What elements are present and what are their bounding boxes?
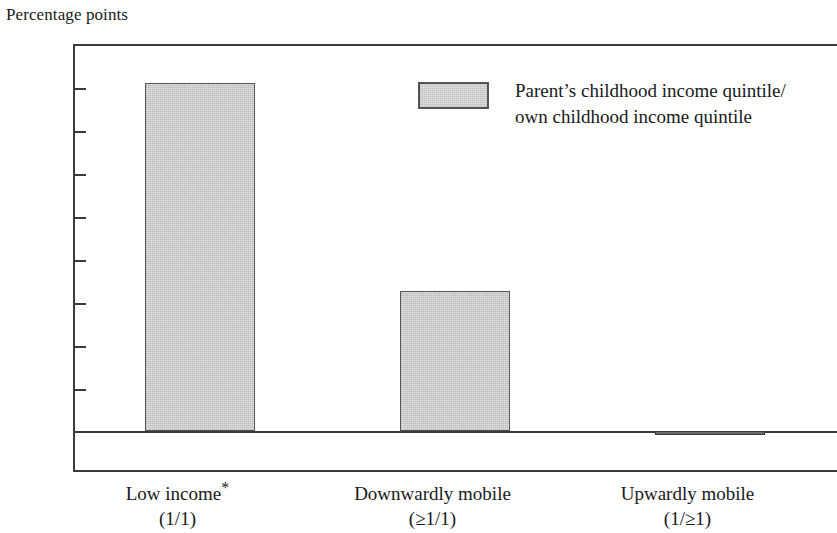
x-axis-label-text: Upwardly mobile (621, 483, 755, 504)
y-tick-mark (75, 346, 86, 348)
y-tick-mark (75, 389, 86, 391)
legend-label-line2: own childhood income quintile (515, 104, 786, 130)
axis-line-top (73, 44, 837, 46)
x-axis-label-line2: (1/1) (75, 506, 280, 531)
y-tick-mark (75, 88, 86, 90)
bar-low-income[interactable] (145, 83, 255, 431)
axis-line-left (73, 44, 75, 472)
footnote-star: * (221, 479, 229, 496)
x-axis-label-downwardly-mobile: Downwardly mobile (≥1/1) (330, 481, 535, 531)
x-axis-label-line1: Downwardly mobile (330, 481, 535, 506)
x-axis-label-line1: Low income* (75, 481, 280, 506)
y-tick-mark (75, 217, 86, 219)
bar-chart-figure: Percentage points 0.16 0.14 0.12 0.10 0.… (0, 0, 837, 533)
legend-swatch-icon (418, 82, 489, 109)
y-tick-mark (75, 260, 86, 262)
axis-line-bottom (73, 470, 837, 472)
x-axis-label-upwardly-mobile: Upwardly mobile (1/≥1) (585, 481, 790, 531)
x-axis-label-line1: Upwardly mobile (585, 481, 790, 506)
legend-label-line1: Parent’s childhood income quintile/ (515, 78, 786, 104)
chart-legend: Parent’s childhood income quintile/ own … (418, 78, 786, 130)
y-tick-mark (75, 303, 86, 305)
x-axis-label-line2: (1/≥1) (585, 506, 790, 531)
y-tick-mark (75, 131, 86, 133)
x-axis-label-text: Low income (126, 483, 222, 504)
y-axis-title: Percentage points (6, 4, 128, 26)
bar-downwardly-mobile[interactable] (400, 291, 510, 431)
x-axis-label-line2: (≥1/1) (330, 506, 535, 531)
legend-label: Parent’s childhood income quintile/ own … (515, 78, 786, 130)
x-axis-label-text: Downwardly mobile (354, 483, 511, 504)
x-axis-label-low-income: Low income* (1/1) (75, 481, 280, 531)
bar-upwardly-mobile[interactable] (655, 431, 765, 435)
y-tick-mark (75, 174, 86, 176)
